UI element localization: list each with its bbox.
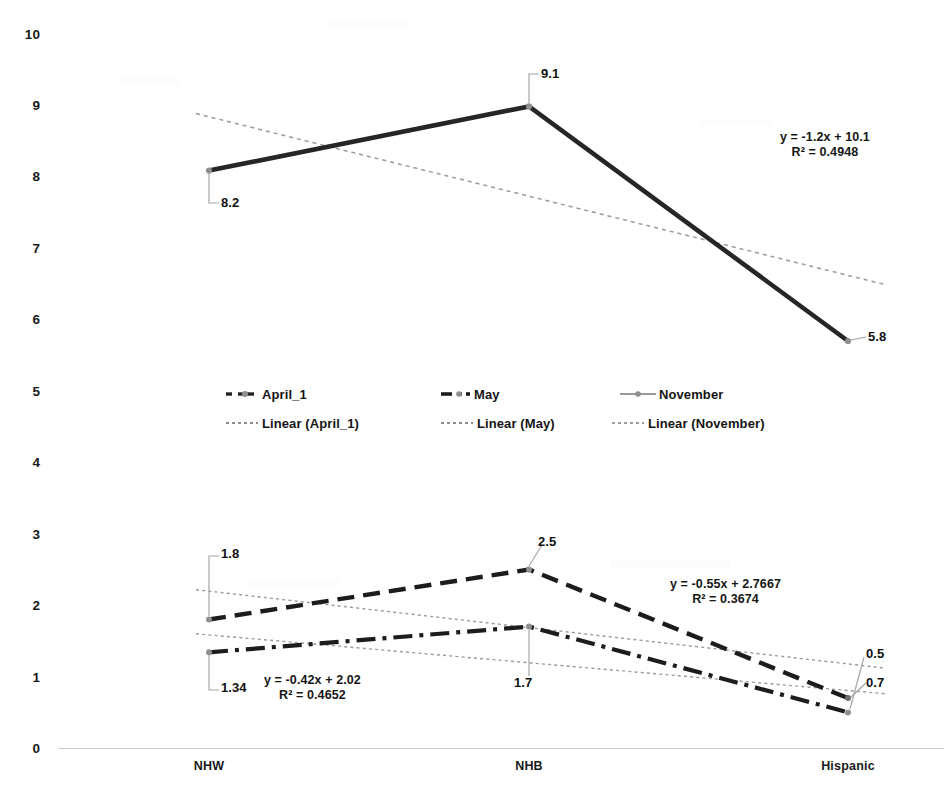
y-axis-tick-6: 6: [0, 312, 40, 327]
annotation-may-r2-line: R² = 0.3674: [670, 592, 781, 607]
annotation-may-equation: y = -0.55x + 2.7667 R² = 0.3674: [670, 577, 781, 607]
leader-april-nhw: [209, 174, 219, 203]
y-axis-tick-2: 2: [0, 598, 40, 613]
x-axis-label-hispanic: Hispanic: [788, 759, 908, 773]
data-label-november-nhb: 1.7: [514, 675, 532, 690]
datapoint-november-hisp: [845, 709, 851, 715]
legend-item-linear-may[interactable]: Linear (May): [477, 416, 555, 431]
datapoint-november-nhb: [526, 624, 532, 630]
data-label-april-nhb: 9.1: [541, 66, 559, 81]
datapoint-may-nhw: [206, 617, 212, 623]
data-label-may-nhw: 1.8: [221, 546, 239, 561]
datapoint-may-nhb: [526, 567, 532, 573]
y-axis-tick-10: 10: [0, 27, 40, 42]
legend-item-november[interactable]: November: [659, 387, 723, 402]
annotation-november-r2-line: R² = 0.4652: [264, 688, 361, 703]
annotation-april-eq-line: y = -1.2x + 10.1: [780, 130, 870, 145]
legend-item-linear-november[interactable]: Linear (November): [648, 416, 765, 431]
legend-item-april[interactable]: April_1: [262, 387, 307, 402]
datapoint-april-nhb: [526, 103, 532, 109]
annotation-april-equation: y = -1.2x + 10.1 R² = 0.4948: [780, 130, 870, 160]
y-axis-tick-4: 4: [0, 455, 40, 470]
legend-swatch-may: [441, 391, 470, 397]
legend-item-linear-april[interactable]: Linear (April_1): [262, 416, 359, 431]
y-axis-tick-3: 3: [0, 527, 40, 542]
data-label-april-nhw: 8.2: [221, 195, 239, 210]
data-label-november-nhw: 1.34: [221, 680, 247, 695]
y-axis-tick-7: 7: [0, 241, 40, 256]
line-chart: 10 9 8 7 6 5 4 3 2 1 0 NHW NHB Hispanic …: [0, 0, 944, 809]
leader-may-nhw: [209, 556, 219, 616]
chart-canvas: [0, 0, 944, 809]
legend-swatch-april: [226, 391, 254, 397]
annotation-november-equation: y = -0.42x + 2.02 R² = 0.4652: [264, 673, 361, 703]
datapoint-april-hisp: [845, 338, 851, 344]
leader-april-nhb: [529, 74, 539, 103]
y-axis-tick-1: 1: [0, 670, 40, 685]
datapoint-november-nhw: [206, 649, 212, 655]
x-axis-label-nhw: NHW: [149, 759, 269, 773]
leader-november-nhw: [209, 655, 219, 690]
legend-swatch-november: [620, 391, 656, 397]
annotation-november-eq-line: y = -0.42x + 2.02: [264, 673, 361, 688]
data-label-april-hisp: 5.8: [868, 329, 886, 344]
data-label-november-hisp: 0.5: [866, 646, 884, 661]
datapoint-may-hisp: [845, 695, 851, 701]
series-line-april: [209, 106, 848, 341]
annotation-april-r2-line: R² = 0.4948: [780, 145, 870, 160]
datapoint-april-nhw: [206, 168, 212, 174]
annotation-may-eq-line: y = -0.55x + 2.7667: [670, 577, 781, 592]
x-axis-label-nhb: NHB: [469, 759, 589, 773]
data-label-may-nhb: 2.5: [538, 534, 556, 549]
y-axis-tick-8: 8: [0, 169, 40, 184]
y-axis-tick-5: 5: [0, 384, 40, 399]
y-axis-tick-9: 9: [0, 98, 40, 113]
legend-item-may[interactable]: May: [474, 387, 500, 402]
data-label-may-hisp: 0.7: [866, 675, 884, 690]
y-axis-tick-0: 0: [0, 741, 40, 756]
leader-april-hisp: [851, 337, 866, 340]
